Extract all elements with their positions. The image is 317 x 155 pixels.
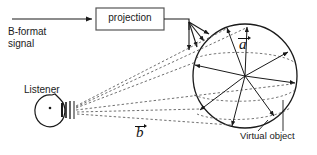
vector-b-arrow-tip <box>144 124 147 128</box>
acoustics-diagram: B-format signal projection Listener Virt… <box>0 0 317 155</box>
listener-head-icon <box>35 94 65 127</box>
virtual-object-label: Virtual object <box>240 131 295 142</box>
vector-a-arrow-tip <box>248 36 251 40</box>
sphere-dashed-chords <box>194 52 295 119</box>
listener-rays <box>76 28 292 125</box>
b-format-signal-label: B-format signal <box>8 26 46 49</box>
projection-output-line <box>164 19 189 30</box>
output-arrow-fan <box>189 22 209 50</box>
listener-label: Listener <box>24 84 60 96</box>
projection-label: projection <box>97 12 163 23</box>
